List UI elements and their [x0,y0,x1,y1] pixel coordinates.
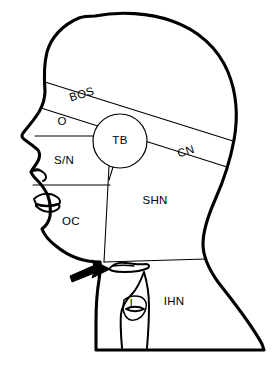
head-silhouette-group [22,13,264,350]
arrow-shaft [70,265,97,282]
region-label-sn: S/N [54,154,74,166]
hyoid-bone-detail [113,265,134,266]
region-label-ihn: IHN [164,295,185,307]
region-label-tb: TB [112,134,127,146]
region-label-shn: SHN [142,194,167,206]
head-neck-diagram-svg: BOS O TB CN S/N OC SHN IHN L [0,0,275,373]
anatomy-diagram: BOS O TB CN S/N OC SHN IHN L [0,0,275,373]
region-label-oc: OC [62,215,80,227]
region-label-o: O [57,115,66,127]
region-label-l: L [130,297,136,309]
head-neck-outline [22,13,264,350]
